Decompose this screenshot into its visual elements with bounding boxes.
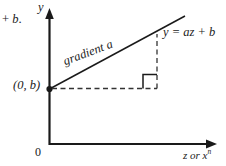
line-graph-figure: + b. y 0 z or xn (0, b) y = az + b gradi… (0, 0, 226, 166)
origin-label: 0 (35, 146, 41, 158)
intercept-marker (46, 86, 52, 92)
y-axis (45, 8, 54, 145)
right-angle-marker (143, 75, 157, 89)
x-axis-label-superscript: n (207, 147, 211, 156)
y-axis-label: y (38, 1, 44, 14)
y-axis-arrowhead (45, 8, 54, 19)
line-equation-label: y = az + b (163, 26, 215, 39)
x-axis-label: z or xn (183, 148, 211, 161)
carryover-text: + b. (2, 13, 22, 26)
x-axis-label-text: z or x (183, 149, 207, 161)
intercept-label: (0, b) (13, 79, 40, 92)
